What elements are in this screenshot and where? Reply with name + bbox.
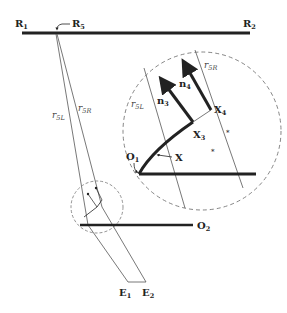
small-normal-1 bbox=[88, 194, 97, 207]
ray-to-e1 bbox=[88, 225, 128, 282]
label-e2: E2 bbox=[142, 287, 154, 300]
small-normal-tip-2 bbox=[95, 187, 97, 189]
marker-star-1: * bbox=[226, 129, 230, 137]
label-r5l-main: r5L bbox=[52, 110, 65, 122]
wavefront-curve bbox=[139, 122, 193, 174]
label-e1: E1 bbox=[119, 287, 131, 300]
label-r5: R5 bbox=[72, 18, 85, 31]
segment-x3-x4 bbox=[193, 110, 211, 122]
ray-to-e2 bbox=[102, 207, 146, 282]
label-r5r-zoom: r5R bbox=[204, 60, 217, 72]
label-x: X bbox=[175, 152, 183, 163]
label-o2: O2 bbox=[197, 220, 210, 233]
small-normal-tip-1 bbox=[87, 193, 89, 195]
label-r5l-zoom: r5L bbox=[131, 99, 144, 111]
label-o1: O1 bbox=[126, 151, 139, 164]
ray-r5r-zoom bbox=[195, 50, 243, 188]
o1-pointer bbox=[134, 163, 137, 172]
label-r2: R2 bbox=[243, 18, 256, 31]
zoom-detail-circle bbox=[123, 52, 281, 210]
marker-star-2: * bbox=[211, 148, 215, 156]
label-r1: R1 bbox=[15, 18, 28, 31]
small-normal-2 bbox=[96, 188, 102, 200]
label-r5r-main: r5R bbox=[78, 103, 91, 115]
label-n4: n4 bbox=[179, 78, 191, 91]
diagram-canvas: * * R1 R5 R2 r5L r5R r5L r5R n3 n4 X4 X3… bbox=[0, 0, 287, 313]
ray-r5l-zoom bbox=[144, 68, 185, 208]
r5-pointer bbox=[57, 24, 70, 29]
label-n3: n3 bbox=[157, 95, 169, 108]
label-x3: X3 bbox=[193, 129, 206, 142]
small-wavefront bbox=[84, 200, 102, 217]
label-x4: X4 bbox=[214, 104, 227, 117]
ray-r5l bbox=[56, 34, 88, 225]
